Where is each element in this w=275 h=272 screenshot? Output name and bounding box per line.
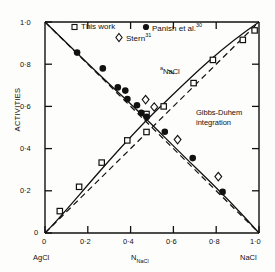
y-axis-ticks-right — [252, 64, 259, 191]
x-endpoint-left-label: AgCl — [33, 253, 49, 262]
y-tick-label-02: 0·2 — [20, 186, 31, 195]
x-tick-label-08: 0·8 — [209, 237, 220, 246]
annotation-line-1: Gibbs-Duhem — [196, 108, 242, 118]
legend-marker-this-work — [72, 25, 77, 30]
legend-label-this-work: This work — [81, 22, 115, 31]
legend-marker-stern — [116, 34, 122, 42]
x-axis-ticks — [45, 226, 259, 233]
y-tick-label-08: 0·8 — [20, 60, 31, 69]
x-tick-label-1: 1·0 — [250, 237, 261, 246]
x-axis-title-sub: NaCl — [136, 258, 148, 264]
x-tick-label-06: 0·6 — [166, 237, 177, 246]
annotation-line-2: integration — [196, 118, 242, 128]
annotation-gibbs-duhem: Gibbs-Duhem integration — [196, 108, 242, 128]
y-tick-label-0: 0 — [34, 228, 38, 237]
y-tick-label-1: 1·0 — [20, 18, 31, 27]
legend-label-stern: Stern31 — [126, 32, 151, 43]
x-tick-label-02: 0·2 — [80, 237, 91, 246]
legend-label-stern-ref: 31 — [145, 32, 151, 38]
legend-label-stern-text: Stern — [126, 34, 145, 43]
legend-label-panish-text: Panish et al. — [152, 24, 196, 33]
activity-composition-chart: 1·0 0·8 0·6 0·4 0·2 0 0 0·2 0·4 0·6 0·8 … — [0, 0, 275, 272]
y-axis-title: ACTIVITIES — [13, 80, 22, 140]
x-tick-label-0: 0 — [42, 237, 46, 246]
curve-label-sub: NaCl — [163, 67, 180, 76]
curve-label-a-nacl: aNaCl — [160, 63, 180, 77]
x-tick-label-04: 0·4 — [123, 237, 134, 246]
x-endpoint-right-label: NaCl — [240, 253, 257, 262]
y-axis-ticks — [45, 22, 52, 233]
y-tick-label-06: 0·6 — [20, 102, 31, 111]
x-axis-title: NNaCl — [131, 253, 149, 264]
legend-label-panish: Panish et al.30 — [152, 22, 202, 33]
y-tick-label-04: 0·4 — [20, 144, 31, 153]
legend-label-panish-ref: 30 — [196, 22, 202, 28]
legend-marker-panish — [143, 24, 149, 30]
